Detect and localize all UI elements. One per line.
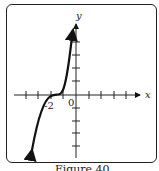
origin-label: 0: [68, 97, 74, 108]
figure-caption: Figure 40: [55, 163, 110, 171]
cubic-graph: [0, 0, 159, 171]
cubic-curve: [32, 30, 73, 150]
y-axis-label: y: [76, 10, 82, 21]
x-axis-label: x: [145, 89, 151, 100]
tick-label-neg2: -2: [44, 100, 54, 111]
